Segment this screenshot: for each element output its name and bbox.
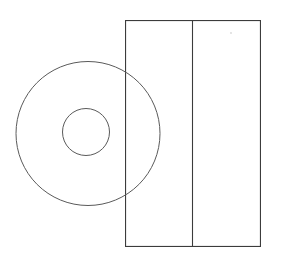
canvas-background bbox=[0, 0, 284, 260]
faint-dot-mark bbox=[230, 32, 232, 34]
drawing-canvas bbox=[0, 0, 284, 260]
line-drawing-figure bbox=[0, 0, 284, 260]
